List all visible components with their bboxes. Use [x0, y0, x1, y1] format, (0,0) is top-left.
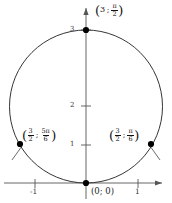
- separator: ;: [121, 131, 127, 139]
- y-tick-label-2: 2: [70, 102, 74, 109]
- polar-circle-figure: 3 2 1 -1 1 ( 3 ; π 2 ) ( 3 2 ; π 6 ) ( 3…: [0, 0, 172, 203]
- fraction-denominator: 6: [43, 135, 49, 143]
- point-label-origin: (0; 0): [91, 187, 114, 196]
- paren-close: ): [51, 129, 56, 142]
- angle-fraction: 5π 6: [40, 128, 50, 142]
- x-tick-label-1: 1: [135, 188, 140, 196]
- paren-open: (: [22, 129, 27, 142]
- y-tick-label-3: 3: [70, 26, 74, 33]
- plot-canvas: [0, 0, 172, 203]
- point-marker-top: [83, 27, 89, 33]
- point-label-right: ( 3 2 ; π 6 ): [109, 128, 139, 142]
- leader-line-right: [150, 146, 160, 160]
- point-label-left: ( 3 2 ; 5π 6 ): [22, 128, 56, 142]
- radius-fraction: 3 2: [115, 128, 121, 142]
- y-axis-arrow-icon: [83, 8, 88, 15]
- radius-fraction: 3 2: [28, 128, 34, 142]
- fraction-denominator: 2: [115, 135, 121, 143]
- fraction-denominator: 2: [111, 10, 117, 18]
- x-tick-label-minus1: -1: [30, 188, 37, 196]
- point-marker-right: [148, 141, 154, 147]
- point-marker-origin: [83, 180, 89, 186]
- paren-close: ): [134, 129, 139, 142]
- separator: ;: [105, 6, 111, 14]
- fraction-denominator: 2: [28, 135, 34, 143]
- leader-line-left: [12, 146, 22, 160]
- point-label-top: ( 3 ; π 2 ): [95, 3, 123, 17]
- separator: ;: [34, 131, 40, 139]
- paren-open: (: [109, 129, 114, 142]
- angle-fraction: π 6: [127, 128, 133, 142]
- fraction-denominator: 6: [127, 135, 133, 143]
- paren-close: ): [118, 4, 123, 17]
- y-tick-label-1: 1: [70, 141, 74, 148]
- angle-fraction: π 2: [111, 3, 117, 17]
- x-axis-arrow-icon: [155, 180, 162, 185]
